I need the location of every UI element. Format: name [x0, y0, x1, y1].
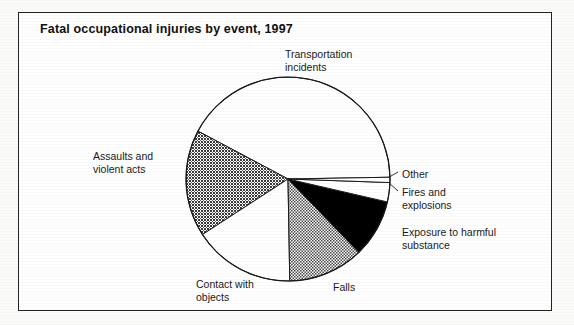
pie-label-other: Other — [402, 168, 428, 181]
pie-slices — [186, 77, 390, 281]
pie-label-assaults-and-violent-acts: Assaults and violent acts — [93, 150, 153, 175]
figure-root: Fatal occupational injuries by event, 19… — [0, 0, 574, 325]
leader-line-fires — [389, 183, 398, 191]
pie-label-fires-and-explosions: Fires and explosions — [402, 186, 452, 211]
pie-label-contact-with-objects: Contact with objects — [196, 278, 254, 303]
pie-label-transportation-incidents: Transportation incidents — [285, 48, 352, 73]
pie-label-exposure-to-harmful-substance: Exposure to harmful substance — [402, 226, 496, 251]
pie-label-falls: Falls — [333, 281, 355, 294]
